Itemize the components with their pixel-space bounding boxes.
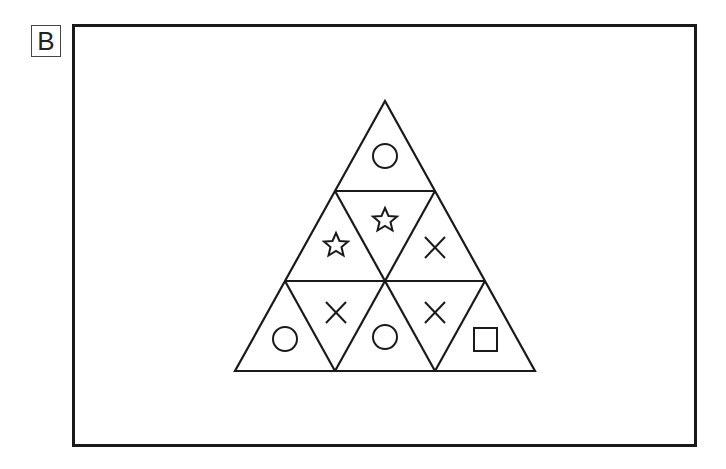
square-icon xyxy=(474,328,497,351)
triangle-puzzle xyxy=(0,0,726,469)
cross-icon xyxy=(425,237,445,258)
star-icon xyxy=(373,208,397,231)
circle-icon xyxy=(373,144,397,168)
circle-icon xyxy=(273,327,297,351)
outer-triangle xyxy=(235,101,535,371)
diagonal xyxy=(435,281,485,371)
cross-icon xyxy=(326,302,346,323)
cross-icon xyxy=(425,302,445,323)
diagonal xyxy=(285,281,335,371)
star-icon xyxy=(324,233,348,256)
circle-icon xyxy=(373,325,397,349)
